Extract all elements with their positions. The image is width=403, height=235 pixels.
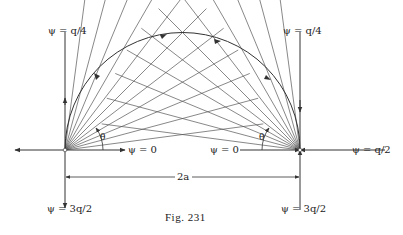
right-source-point <box>298 148 302 152</box>
streamline-fan <box>65 0 300 150</box>
label-bottom-left: ψ = 3q/2 <box>47 203 92 214</box>
label-psi-zero-left: ψ = 0 <box>128 144 157 155</box>
label-theta-left: θ <box>100 132 105 142</box>
label-right-end: ψ = q/2 <box>352 144 391 155</box>
label-psi-zero-right: ψ = 0 <box>210 144 239 155</box>
label-bottom-right: ψ = 3q/2 <box>281 203 326 214</box>
label-top-left: ψ = q/4 <box>48 25 87 36</box>
left-source-point <box>63 148 67 152</box>
streamline-arrows-icon <box>94 34 271 80</box>
figure-caption: Fig. 231 <box>165 211 206 223</box>
label-theta-right: θ <box>259 132 264 142</box>
flow-diagram: ψ = q/4 ψ = q/4 ψ = 0 ψ = 0 ψ = q/2 ψ = … <box>0 0 403 235</box>
label-dimension: 2a <box>177 171 189 182</box>
label-top-right: ψ = q/4 <box>283 25 322 36</box>
